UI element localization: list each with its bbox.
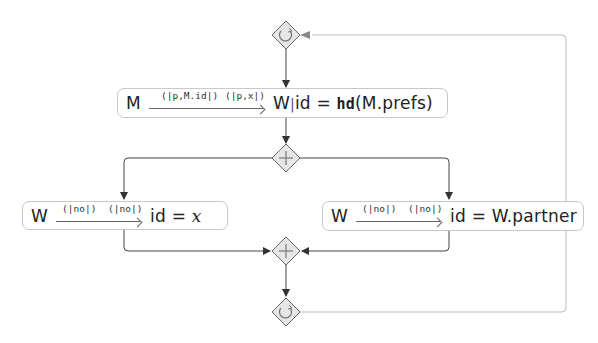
task-expression: id = W.partner bbox=[450, 206, 577, 226]
gateway-parallel-join bbox=[272, 237, 300, 265]
task-source: W bbox=[323, 206, 348, 226]
task-right: W (|no|) (|no|) id = W.partner bbox=[322, 201, 584, 231]
task-main: M (|p,M.id|) (|p,x|) W|id = hd(M.prefs) bbox=[117, 88, 448, 118]
gateway-loop-end bbox=[272, 298, 300, 326]
rhs: x bbox=[192, 206, 202, 226]
equals: = bbox=[316, 93, 330, 113]
arrow-label-request: (|no|) bbox=[362, 203, 396, 214]
task-source: M bbox=[118, 93, 141, 113]
flow-connectors bbox=[0, 0, 598, 343]
equals: = bbox=[472, 206, 486, 226]
function-name: hd bbox=[337, 95, 355, 113]
task-left: W (|no|) (|no|) id = x bbox=[22, 201, 228, 230]
edge-split-right bbox=[300, 158, 449, 199]
rhs: W.partner bbox=[492, 206, 577, 226]
message-arrow: (|no|) (|no|) bbox=[56, 202, 142, 230]
arrow-label-request: (|p,M.id|) bbox=[161, 90, 218, 101]
edge-split-left bbox=[124, 158, 272, 199]
equals: = bbox=[172, 206, 186, 226]
lhs: id bbox=[150, 206, 166, 226]
arrow-label-request: (|no|) bbox=[62, 203, 96, 214]
task-expression: W|id = hd(M.prefs) bbox=[273, 93, 433, 113]
arrow-right-icon bbox=[256, 105, 266, 115]
edge-left-join bbox=[124, 229, 270, 251]
gateway-parallel-split bbox=[272, 144, 300, 172]
edge-right-join bbox=[302, 230, 449, 251]
lhs: id bbox=[295, 93, 311, 113]
message-arrow: (|p,M.id|) (|p,x|) bbox=[149, 89, 265, 117]
arrow-label-response: (|p,x|) bbox=[225, 90, 265, 101]
arrow-label-response: (|no|) bbox=[108, 203, 142, 214]
arrow-right-icon bbox=[433, 218, 443, 228]
task-expression: id = x bbox=[150, 206, 201, 226]
target-entity: W bbox=[273, 93, 290, 113]
lhs: id bbox=[450, 206, 466, 226]
loop-back-edge bbox=[300, 31, 566, 312]
message-arrow: (|no|) (|no|) bbox=[356, 202, 442, 230]
arrow-label-response: (|no|) bbox=[408, 203, 442, 214]
task-source: W bbox=[23, 206, 48, 226]
arrow-right-icon bbox=[133, 217, 143, 227]
function-arg: (M.prefs) bbox=[355, 93, 433, 113]
gateway-loop-start bbox=[272, 21, 300, 49]
